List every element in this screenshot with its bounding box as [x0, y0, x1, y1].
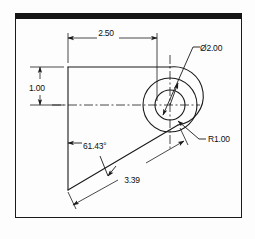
diameter-callout-label: Ø2.00 [200, 43, 223, 53]
height-dimension-label: 1.00 [29, 83, 45, 93]
drawing-canvas: 2.50 1.00 Ø2.00 R1.00 [0, 0, 255, 239]
slant-ext-line-lower [68, 192, 76, 209]
angle-leader-line [100, 156, 108, 176]
slant-length-dimension-label: 3.39 [124, 175, 140, 185]
center-lines [52, 55, 200, 150]
angle-arrow-to-slant-edge [108, 166, 116, 176]
width-dimension-label: 2.50 [98, 28, 114, 38]
drawing-screen: 2.50 1.00 Ø2.00 R1.00 [0, 0, 255, 239]
slant-dim-line-lower [73, 180, 118, 205]
part-arc-outer [170, 67, 203, 125]
part-edge-slant [68, 125, 178, 190]
technical-drawing-svg: 2.50 1.00 Ø2.00 R1.00 [0, 0, 255, 239]
diameter-leader-arrow-upper [170, 83, 178, 105]
radius-callout-label: R1.00 [208, 134, 230, 144]
angle-dimension-label: 61.43° [83, 141, 106, 151]
slant-dim-line-upper [146, 141, 184, 163]
